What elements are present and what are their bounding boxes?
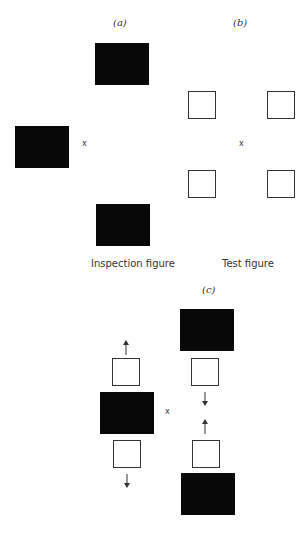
panel-b-label: (b) xyxy=(233,17,247,28)
panel-a-label: (a) xyxy=(113,17,127,28)
inspection-rect-right-top xyxy=(180,309,234,351)
inspection-rect-left xyxy=(15,126,69,168)
arrow-up-icon xyxy=(200,419,210,435)
arrow-down-icon xyxy=(200,391,210,407)
arrow-up-icon xyxy=(121,340,131,356)
arrow-down-icon xyxy=(122,473,132,489)
caption-test-figure: Test figure xyxy=(222,258,274,269)
inspection-rect-left-center xyxy=(100,392,154,434)
fixation-point-c: x xyxy=(165,407,170,416)
panel-c-label: (c) xyxy=(202,284,215,295)
test-square-bottom-right xyxy=(267,170,295,198)
test-square-left-lower xyxy=(113,440,141,468)
fixation-point-a: x xyxy=(82,139,87,148)
test-square-top-left xyxy=(188,91,216,119)
inspection-rect-right-bottom xyxy=(181,473,235,515)
inspection-rect-bottom xyxy=(96,204,150,246)
fixation-point-b: x xyxy=(239,139,244,148)
test-square-bottom-left xyxy=(188,170,216,198)
test-square-left-upper xyxy=(112,358,140,386)
test-square-top-right xyxy=(267,91,295,119)
caption-inspection-figure: Inspection figure xyxy=(91,258,175,269)
test-square-right-lower xyxy=(192,440,220,468)
inspection-rect-top xyxy=(95,43,149,85)
test-square-right-upper xyxy=(191,358,219,386)
